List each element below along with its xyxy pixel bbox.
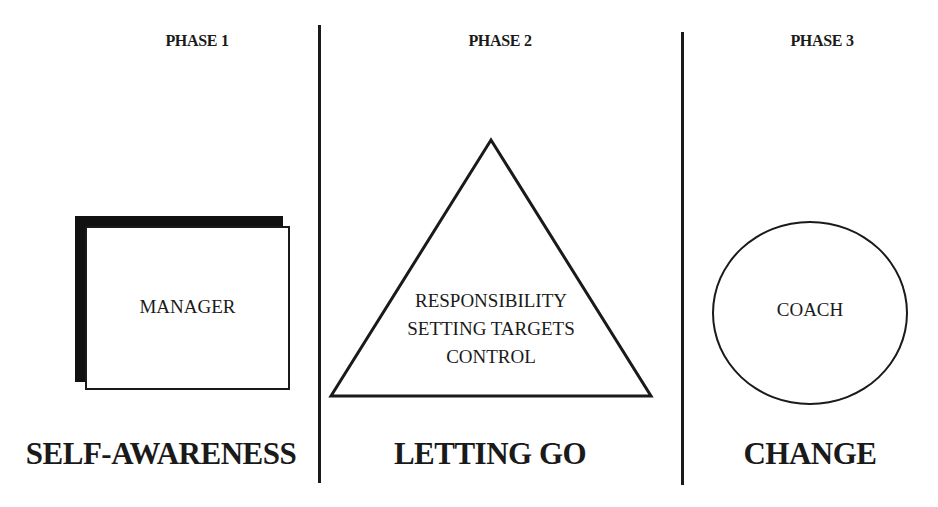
triangle-label-setting-targets: SETTING TARGETS [330, 315, 652, 343]
coach-label: COACH [714, 299, 906, 321]
outcome-self-awareness: SELF-AWARENESS [22, 436, 300, 472]
coach-circle: COACH [712, 221, 908, 405]
triangle-label-responsibility: RESPONSIBILITY [330, 287, 652, 315]
triangle-label-control: CONTROL [330, 343, 652, 371]
outcome-letting-go: LETTING GO [370, 436, 610, 472]
triangle-labels: RESPONSIBILITY SETTING TARGETS CONTROL [330, 287, 652, 371]
outcome-change: CHANGE [710, 436, 910, 472]
